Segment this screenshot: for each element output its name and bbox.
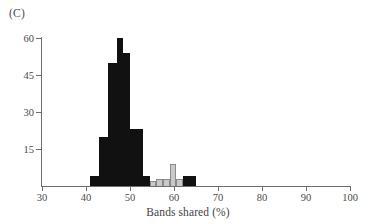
- histogram-bar: [90, 176, 99, 186]
- histogram-bar: [108, 63, 117, 186]
- x-axis-tick-label: 30: [37, 192, 48, 203]
- x-axis-tick-label: 70: [213, 192, 224, 203]
- histogram-bar: [170, 164, 177, 186]
- x-axis-tick-label: 50: [125, 192, 136, 203]
- histogram-bar: [183, 176, 192, 186]
- x-axis-tick: [130, 186, 131, 191]
- y-axis-tick-label: 45: [0, 70, 34, 81]
- y-axis-tick-label: 15: [0, 144, 34, 155]
- x-axis-title: Bands shared (%): [0, 206, 376, 218]
- histogram-bar: [150, 181, 157, 186]
- y-axis-tick-labels: 15304560: [0, 0, 34, 224]
- histogram-bar: [117, 38, 124, 186]
- histogram-bar: [130, 129, 143, 186]
- x-axis-tick: [218, 186, 219, 191]
- histogram-bar: [192, 176, 196, 186]
- x-axis-line: [41, 186, 351, 187]
- histogram-bar: [99, 137, 108, 186]
- y-axis-tick-label: 60: [0, 33, 34, 44]
- y-axis-tick-label: 30: [0, 107, 34, 118]
- histogram-bar: [143, 176, 150, 186]
- x-axis-tick-label: 60: [169, 192, 180, 203]
- x-axis-tick-label: 90: [301, 192, 312, 203]
- x-axis-tick: [306, 186, 307, 191]
- x-axis-tick: [86, 186, 87, 191]
- x-axis-tick: [262, 186, 263, 191]
- x-axis-tick-label: 100: [342, 192, 358, 203]
- histogram-bar: [176, 179, 183, 186]
- x-axis-tick-label: 40: [81, 192, 92, 203]
- plot-area: [42, 38, 350, 186]
- x-axis-tick: [350, 186, 351, 191]
- histogram-bar: [123, 53, 130, 186]
- x-axis-tick: [174, 186, 175, 191]
- x-axis-tick-label: 80: [257, 192, 268, 203]
- histogram-bar: [163, 179, 170, 186]
- histogram-bar: [156, 179, 163, 186]
- x-axis-tick: [42, 186, 43, 191]
- figure-panel-c: (C) 15304560 30405060708090100 Bands sha…: [0, 0, 376, 224]
